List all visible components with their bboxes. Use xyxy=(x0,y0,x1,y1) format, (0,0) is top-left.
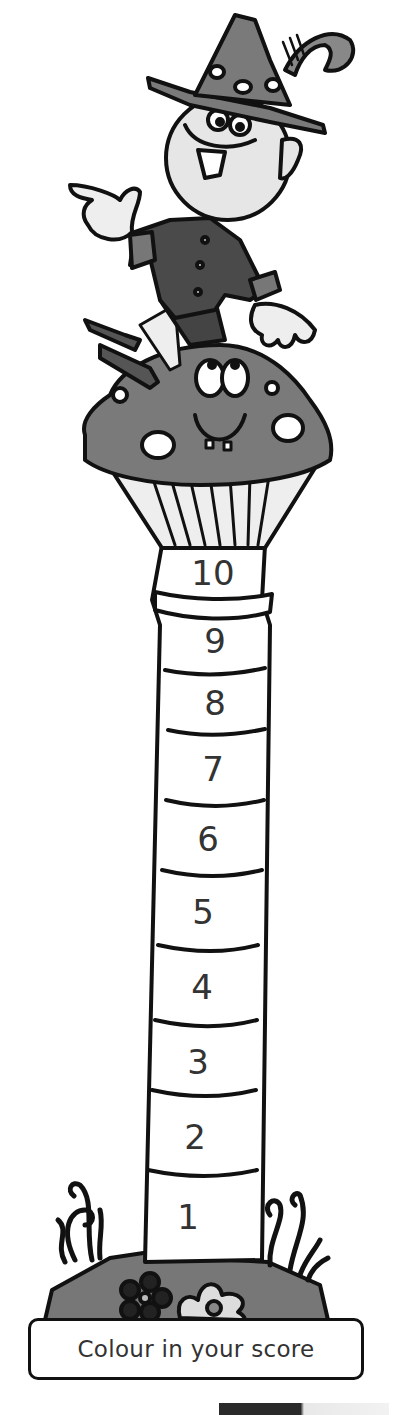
score-segment-9[interactable]: 9 xyxy=(175,624,255,658)
score-segment-2[interactable]: 2 xyxy=(155,1120,235,1154)
scan-artifact-bar xyxy=(219,1403,389,1415)
elf-hand-right xyxy=(251,304,315,347)
score-segment-8[interactable]: 8 xyxy=(175,686,255,720)
score-segment-6[interactable]: 6 xyxy=(168,822,248,856)
caption-banner: Colour in your score xyxy=(28,1318,364,1380)
score-segment-1[interactable]: 1 xyxy=(148,1200,228,1234)
caption-text: Colour in your score xyxy=(77,1336,314,1362)
score-segment-10[interactable]: 10 xyxy=(173,556,253,590)
grass-left-icon xyxy=(58,1184,101,1262)
score-segment-7[interactable]: 7 xyxy=(173,752,253,786)
score-segment-5[interactable]: 5 xyxy=(163,895,243,929)
elf-hand-pointing xyxy=(70,185,140,239)
score-segment-4[interactable]: 4 xyxy=(162,970,242,1004)
score-segment-3[interactable]: 3 xyxy=(158,1045,238,1079)
